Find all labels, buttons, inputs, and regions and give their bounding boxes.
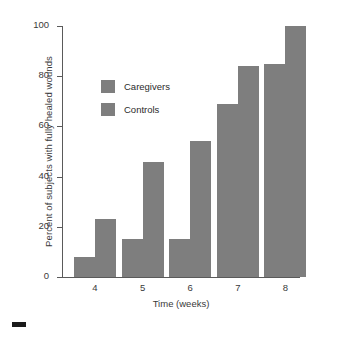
legend-label: Controls	[124, 104, 159, 115]
bar-caregivers-week-4	[74, 257, 95, 277]
bar-caregivers-week-7	[217, 104, 238, 277]
bar-chart-figure: Percent of subjects with fully healed wo…	[0, 0, 349, 337]
bar-caregivers-week-8	[264, 64, 285, 277]
x-axis-tick-label: 8	[264, 282, 306, 293]
bar-controls-week-5	[143, 162, 164, 277]
bar-controls-week-4	[95, 219, 116, 277]
y-axis-label: Percent of subjects with fully healed wo…	[43, 27, 54, 277]
legend-swatch-icon	[101, 103, 115, 116]
legend-swatch-icon	[101, 80, 115, 93]
y-axis-tick-label: 40	[38, 170, 49, 181]
x-axis-tick-label: 7	[217, 282, 259, 293]
chart-legend: Caregivers Controls	[101, 76, 170, 122]
bar-group	[217, 26, 259, 277]
bar-group	[169, 26, 211, 277]
bar-caregivers-week-5	[122, 239, 143, 277]
bar-controls-week-7	[238, 66, 259, 277]
x-axis-tick-label: 6	[169, 282, 211, 293]
bar-controls-week-8	[285, 26, 306, 277]
y-axis-tick-label: 0	[44, 270, 49, 281]
plot-area: 0 20 40 60 80 100 45678	[62, 26, 300, 277]
y-axis-tick-label: 80	[38, 69, 49, 80]
x-axis-tick-label: 4	[74, 282, 116, 293]
bar-group	[122, 26, 164, 277]
bar-group-container	[62, 26, 300, 277]
y-axis-tick-label: 20	[38, 220, 49, 231]
x-axis-line	[62, 277, 300, 278]
y-axis-tick-label: 60	[38, 119, 49, 130]
bar-group	[74, 26, 116, 277]
y-axis-tick: 0	[57, 277, 62, 278]
x-axis-tick-label: 5	[122, 282, 164, 293]
legend-item-controls: Controls	[101, 99, 170, 119]
legend-label: Caregivers	[124, 81, 170, 92]
x-axis-label: Time (weeks)	[62, 298, 300, 309]
bar-controls-week-6	[190, 141, 211, 277]
y-axis-tick-label: 100	[33, 19, 49, 30]
bar-caregivers-week-6	[169, 239, 190, 277]
bar-group	[264, 26, 306, 277]
legend-item-caregivers: Caregivers	[101, 76, 170, 96]
corner-registration-mark	[12, 322, 26, 327]
